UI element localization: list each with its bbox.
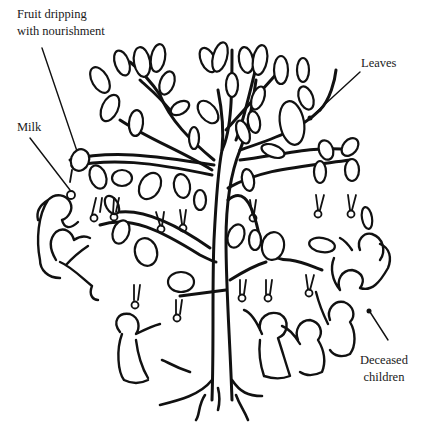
label-deceased-line-2: children bbox=[360, 369, 408, 386]
label-fruit-line-2: with nourishment bbox=[17, 23, 105, 40]
child-left-mid bbox=[51, 230, 98, 300]
leader-lines bbox=[30, 48, 388, 340]
child-right-1 bbox=[282, 320, 324, 375]
leader-line-deceased bbox=[370, 312, 388, 340]
leader-line-milk bbox=[30, 138, 70, 190]
drip bbox=[174, 300, 183, 322]
drip bbox=[91, 198, 103, 222]
child-right-top bbox=[340, 234, 383, 260]
label-fruit-dripping: Fruit dripping with nourishment bbox=[17, 6, 105, 40]
label-fruit-line-1: Fruit dripping bbox=[17, 6, 105, 23]
leader-dot-deceased bbox=[367, 309, 372, 314]
drip bbox=[239, 280, 247, 302]
label-leaves: Leaves bbox=[361, 55, 396, 72]
drip bbox=[156, 212, 165, 233]
label-deceased-children: Deceased children bbox=[360, 352, 408, 386]
label-deceased-line-1: Deceased bbox=[360, 352, 408, 369]
illustration: Fruit dripping with nourishment Leaves M… bbox=[0, 0, 423, 431]
drip bbox=[132, 285, 141, 309]
label-milk: Milk bbox=[17, 119, 41, 136]
drip bbox=[348, 195, 357, 218]
child-bottom-left bbox=[116, 314, 160, 383]
child-bottom-right bbox=[244, 310, 290, 378]
drip bbox=[306, 275, 315, 297]
leader-line-fruit bbox=[42, 48, 80, 160]
child-right-3 bbox=[332, 244, 390, 290]
drip bbox=[265, 280, 273, 302]
drip bbox=[315, 195, 325, 218]
drip bbox=[67, 170, 75, 199]
